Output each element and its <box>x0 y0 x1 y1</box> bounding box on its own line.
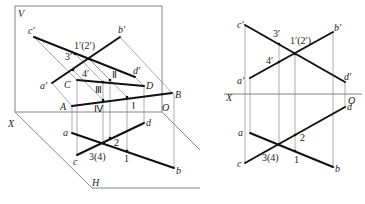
label-C: C <box>64 79 71 90</box>
label-B: B <box>175 89 181 100</box>
line-AB-space <box>72 93 172 106</box>
left-pictorial-diagram: V H X O c′ b′ a′ d′ 1′(2′) 3′ 4′ C D A B… <box>7 6 200 188</box>
label-3-prime: 3′ <box>65 51 72 62</box>
label-b-prime: b′ <box>118 24 126 35</box>
label-b-prime-right: b′ <box>334 22 342 33</box>
label-c-right: c <box>237 158 242 169</box>
label-3-4: 3(4) <box>89 151 106 163</box>
label-3-prime-right: 3′ <box>273 28 280 39</box>
label-3-4-right: 3(4) <box>262 152 279 164</box>
label-1: 1 <box>124 153 129 164</box>
label-H-plane: H <box>91 177 100 188</box>
label-A: A <box>59 101 67 112</box>
label-d: d <box>146 117 152 128</box>
label-2-right: 2 <box>300 132 305 143</box>
label-D: D <box>145 80 154 91</box>
label-X-right: X <box>225 92 233 103</box>
label-c-prime: c′ <box>28 25 35 36</box>
label-c: c <box>73 156 78 167</box>
label-1-2-prime: 1′(2′) <box>74 40 95 52</box>
label-a: a <box>63 127 68 138</box>
label-a-right: a <box>238 127 243 138</box>
label-1-right: 1 <box>294 154 299 165</box>
label-I: Ⅰ <box>132 100 135 111</box>
label-d-prime-right: d′ <box>344 71 352 82</box>
label-V-plane: V <box>18 8 26 19</box>
label-4-prime-right: 4′ <box>266 55 273 66</box>
h-plane-frame <box>15 112 200 188</box>
label-d-prime: d′ <box>133 65 141 76</box>
label-1-2-prime-right: 1′(2′) <box>290 35 311 47</box>
right-orthographic-diagram: X O c′ b′ a′ d′ 1′(2′) 3′ 4′ a d c b 3(4… <box>224 19 362 174</box>
label-O: O <box>162 102 169 113</box>
projector-lines-right <box>245 25 345 167</box>
label-a-prime: a′ <box>40 80 48 91</box>
projection-diagram: V H X O c′ b′ a′ d′ 1′(2′) 3′ 4′ C D A B… <box>0 0 365 204</box>
label-X: X <box>7 118 15 129</box>
label-b: b <box>176 165 181 176</box>
label-4-prime: 4′ <box>82 68 89 79</box>
label-IV: Ⅳ <box>94 103 104 114</box>
label-2: 2 <box>114 137 119 148</box>
label-II: Ⅱ <box>112 69 117 80</box>
label-III: Ⅲ <box>95 84 102 95</box>
label-c-prime-right: c′ <box>237 19 244 30</box>
label-b-right: b <box>335 163 340 174</box>
label-a-prime-right: a′ <box>237 75 245 86</box>
